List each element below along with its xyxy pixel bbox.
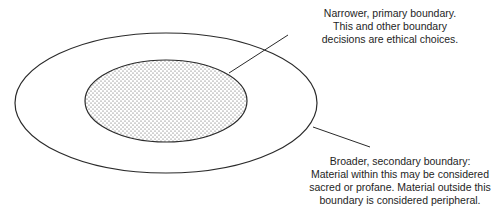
secondary-label-line: Material within this may be considered (300, 168, 500, 181)
secondary-label-line: sacred or profane. Material outside this (300, 181, 500, 194)
primary-label-line: decisions are ethical choices. (290, 33, 490, 46)
primary-boundary-label: Narrower, primary boundary. This and oth… (290, 7, 490, 46)
secondary-boundary-label: Broader, secondary boundary: Material wi… (300, 155, 500, 207)
secondary-label-line: boundary is considered peripheral. (300, 194, 500, 207)
secondary-pointer-line (313, 127, 370, 147)
primary-label-line: Narrower, primary boundary. (290, 7, 490, 20)
inner-primary-boundary (85, 60, 247, 142)
secondary-label-line: Broader, secondary boundary: (300, 155, 500, 168)
primary-label-line: This and other boundary (290, 20, 490, 33)
